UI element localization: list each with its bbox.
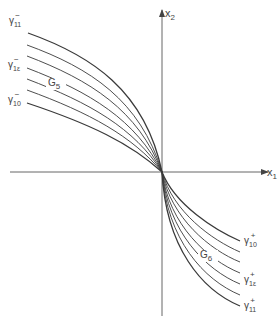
x1-axis-label: x1 <box>267 167 277 181</box>
curve-label-gamma11-minus: γ11− <box>9 16 26 26</box>
curve-label-gamma1e-minus: γ1ε− <box>8 60 25 70</box>
region-g5-label: G5 <box>48 78 60 91</box>
region-g6-label: G6 <box>200 250 212 263</box>
curve-label-gamma10-plus: γ10+ <box>244 236 261 246</box>
curve-label-gamma10-minus: γ10− <box>8 95 25 105</box>
upper-curve-family <box>27 33 162 172</box>
x2-axis-label: x2 <box>165 8 175 22</box>
lower-curve-family <box>162 172 240 306</box>
curve-label-gamma11-plus: γ11+ <box>244 301 261 311</box>
diagram-canvas <box>0 0 279 323</box>
curve-label-gamma1e-plus: γ1ε+ <box>244 275 261 285</box>
